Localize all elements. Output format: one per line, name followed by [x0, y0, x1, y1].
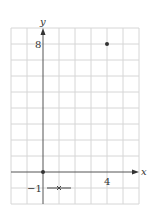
y-tick-neg1: −1	[27, 183, 42, 194]
y-axis-arrow-icon	[41, 28, 46, 35]
grid	[11, 28, 139, 204]
point-4-8	[105, 42, 109, 46]
x-axis-arrow-icon	[132, 170, 139, 175]
y-tick-8: 8	[35, 39, 41, 50]
y-axis-label: y	[39, 16, 46, 27]
y-axis	[41, 28, 46, 204]
coordinate-plane: x y 8 4 −1	[0, 0, 153, 211]
point-origin	[41, 170, 45, 174]
x-tick-4: 4	[104, 176, 110, 187]
x-axis-label: x	[141, 166, 147, 177]
